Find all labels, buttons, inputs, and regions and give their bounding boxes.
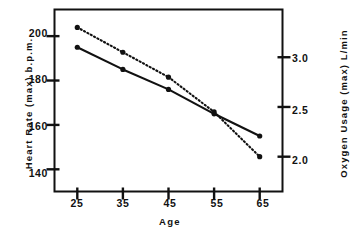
data-point [257,154,262,159]
plot-area [0,0,359,237]
y-axis-right-ticks [278,57,291,156]
data-point [120,50,125,55]
data-point [75,25,80,30]
data-point [212,109,217,114]
data-point [257,133,262,138]
data-point [120,67,125,72]
x-axis-ticks [77,188,259,200]
series-heart-rate [75,45,263,139]
y-axis-left-ticks [47,36,60,169]
plot-frame [55,10,283,192]
series-oxygen-usage [75,25,263,159]
data-point [166,75,171,80]
data-point [75,45,80,50]
data-point [166,87,171,92]
chart-figure: Heart Rate (max) b.p.m. Oxygen Usage (ma… [0,0,359,237]
